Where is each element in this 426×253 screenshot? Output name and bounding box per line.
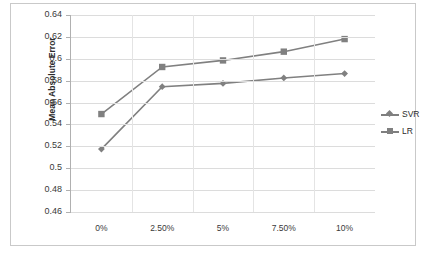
gridline-horizontal (71, 146, 375, 147)
gridline-horizontal (71, 168, 375, 169)
gridline-horizontal (71, 15, 375, 16)
y-axis-tick-label: 0.46 (22, 207, 62, 216)
gridline-horizontal (71, 103, 375, 104)
gridline-vertical (314, 15, 315, 212)
legend-marker-glyph (386, 110, 393, 117)
chart-figure: Mean Absolute Error 0.640.620.60.580.560… (0, 0, 426, 253)
gridline-vertical (132, 15, 133, 212)
chart-legend: SVRLR (381, 106, 425, 140)
y-axis-tick-label: 0.6 (22, 54, 62, 63)
y-axis-tick-label: 0.5 (22, 163, 62, 172)
legend-item-svr[interactable]: SVR (381, 106, 425, 123)
plot-area (71, 15, 375, 212)
gridline-horizontal (71, 81, 375, 82)
y-axis-tick-mark (66, 190, 70, 191)
legend-label: LR (402, 127, 413, 136)
y-axis-tick-mark (66, 168, 70, 169)
legend-item-lr[interactable]: LR (381, 123, 425, 140)
y-axis-tick-labels: 0.640.620.60.580.560.540.520.50.480.46 (20, 0, 62, 253)
y-axis-tick-mark (66, 146, 70, 147)
y-axis-tick-mark (66, 212, 70, 213)
y-axis-tick-label: 0.52 (22, 141, 62, 150)
series-layer (71, 15, 375, 212)
y-axis-tick-label: 0.58 (22, 76, 62, 85)
data-point-lr (98, 111, 104, 117)
gridline-horizontal (71, 212, 375, 213)
y-axis-tick-mark (66, 103, 70, 104)
y-axis-tick-label: 0.64 (22, 10, 62, 19)
y-axis-tick-mark (66, 124, 70, 125)
y-axis-tick-label: 0.54 (22, 119, 62, 128)
gridline-vertical (253, 15, 254, 212)
y-axis-tick-label: 0.56 (22, 98, 62, 107)
x-axis-tick-label: 10% (315, 224, 375, 233)
data-point-lr (281, 48, 287, 54)
gridline-vertical (193, 15, 194, 212)
gridline-horizontal (71, 37, 375, 38)
x-axis-tick-label: 7.50% (254, 224, 314, 233)
legend-label: SVR (402, 110, 419, 119)
gridline-horizontal (71, 124, 375, 125)
y-axis-tick-label: 0.62 (22, 32, 62, 41)
legend-marker-square-icon (381, 126, 399, 137)
x-axis-tick-label: 5% (193, 224, 253, 233)
y-axis-tick-label: 0.48 (22, 185, 62, 194)
data-point-svr (341, 70, 348, 77)
y-axis-tick-mark (66, 59, 70, 60)
x-axis-tick-label: 2.50% (132, 224, 192, 233)
y-axis-tick-mark (66, 37, 70, 38)
y-axis-tick-mark (66, 81, 70, 82)
gridline-horizontal (71, 59, 375, 60)
data-point-lr (159, 64, 165, 70)
legend-marker-diamond-icon (381, 109, 399, 120)
legend-marker-glyph (387, 128, 393, 134)
y-axis-tick-mark (66, 15, 70, 16)
x-axis-tick-label: 0% (71, 224, 131, 233)
gridline-horizontal (71, 190, 375, 191)
